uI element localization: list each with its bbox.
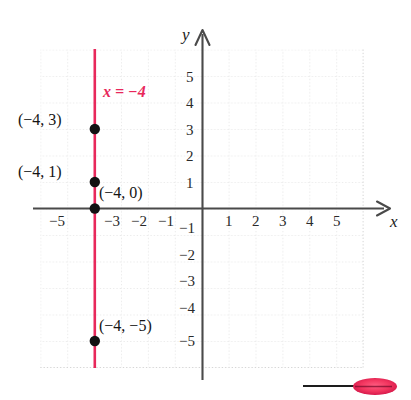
y-tick-label-5: 5 [186, 70, 194, 85]
x-tick-label-3: 3 [279, 214, 287, 229]
pen-icon [303, 378, 397, 395]
y-tick-label-neg2: −2 [179, 248, 195, 263]
point-label-neg4-0: (−4, 0) [99, 185, 143, 201]
x-tick-label-neg5: −5 [49, 214, 65, 229]
point-neg4-3 [90, 124, 100, 134]
equation-label: x = −4 [103, 84, 146, 100]
y-tick-label-1: 1 [186, 176, 194, 191]
x-tick-label-4: 4 [306, 214, 314, 229]
y-tick-label-2: 2 [186, 149, 194, 164]
figure-container: y x x = −4 −5 −3 −2 −1 1 2 3 4 5 5 4 3 2… [0, 0, 411, 400]
y-tick-label-neg5: −5 [179, 334, 195, 349]
x-tick-label-1: 1 [225, 214, 233, 229]
x-tick-label-neg2: −2 [131, 214, 147, 229]
y-axis-label: y [182, 26, 190, 43]
y-tick-label-neg1: −1 [179, 221, 195, 236]
point-label-neg4-1: (−4, 1) [18, 164, 62, 180]
coordinate-plane [0, 0, 411, 400]
point-neg4-neg5 [90, 336, 100, 346]
x-tick-label-neg1: −1 [158, 214, 174, 229]
y-tick-label-neg4: −4 [179, 301, 195, 316]
point-neg4-0 [90, 203, 100, 213]
y-tick-label-3: 3 [186, 123, 194, 138]
x-tick-label-2: 2 [252, 214, 260, 229]
x-tick-label-5: 5 [333, 214, 341, 229]
x-axis-label: x [390, 213, 398, 230]
point-label-neg4-neg5: (−4, −5) [99, 318, 152, 334]
point-label-neg4-3: (−4, 3) [18, 112, 62, 128]
y-tick-label-4: 4 [186, 96, 194, 111]
x-tick-label-neg3: −3 [104, 214, 120, 229]
y-tick-label-neg3: −3 [179, 274, 195, 289]
